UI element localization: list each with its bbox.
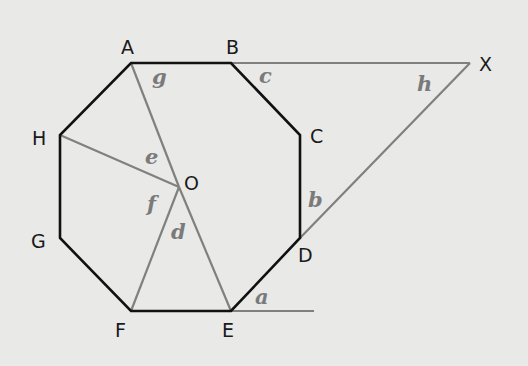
angle-label-f: f xyxy=(145,191,160,216)
angle-label-e: e xyxy=(145,144,158,169)
vertex-label-a: A xyxy=(121,36,134,58)
angle-label-h: h xyxy=(417,71,432,96)
vertex-label-b: B xyxy=(226,36,239,58)
angle-label-d: d xyxy=(171,219,186,244)
line-o-e xyxy=(179,187,231,311)
vertex-label-c: C xyxy=(310,125,323,147)
vertex-label-h: H xyxy=(32,127,46,149)
vertex-label-g: G xyxy=(31,230,46,252)
vertex-label-e: E xyxy=(222,319,234,341)
angle-label-c: c xyxy=(259,63,272,88)
octagon-diagram: A B C D E F G H O X a b c d e f g h xyxy=(0,0,528,366)
vertex-label-f: F xyxy=(115,319,126,341)
vertex-label-x: X xyxy=(479,53,492,75)
vertex-label-d: D xyxy=(298,244,313,266)
vertex-label-o: O xyxy=(184,172,199,194)
angle-label-a: a xyxy=(255,284,269,309)
line-x-d xyxy=(300,63,470,238)
angle-label-g: g xyxy=(152,64,167,89)
angle-label-b: b xyxy=(308,187,323,212)
